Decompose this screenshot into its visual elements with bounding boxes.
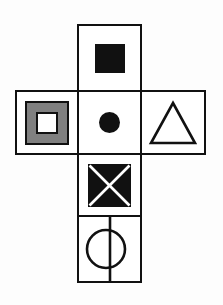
net-cell-middle-center[interactable] <box>77 90 142 155</box>
net-cell-top[interactable] <box>77 24 142 92</box>
cell-content-top <box>79 26 140 90</box>
concentric-squares-inner-square <box>36 112 58 134</box>
cell-content-middle-right <box>142 92 204 153</box>
outline-triangle-icon <box>148 100 198 146</box>
concentric-squares-icon <box>25 101 69 145</box>
cell-content-middle-center <box>79 92 140 153</box>
net-cell-middle-right[interactable] <box>140 90 206 155</box>
cell-content-middle-left <box>17 92 77 153</box>
net-cell-lower-center[interactable] <box>77 153 142 217</box>
cube-net-diagram <box>0 0 223 305</box>
filled-square-icon <box>95 44 125 73</box>
cell-content-bottom <box>79 217 140 281</box>
circle-with-vertical-line-icon <box>79 217 140 281</box>
filled-circle-icon <box>99 112 120 133</box>
crossed-square-icon <box>88 164 131 207</box>
cell-content-lower-center <box>79 155 140 215</box>
net-cell-middle-left[interactable] <box>15 90 79 155</box>
net-cell-bottom[interactable] <box>77 215 142 283</box>
